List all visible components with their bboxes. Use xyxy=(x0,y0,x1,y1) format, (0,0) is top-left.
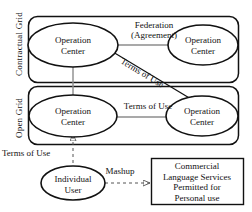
node-label-oc-bottom-left-line1: Operation xyxy=(43,106,103,116)
label-open-grid: Open Grid xyxy=(14,98,24,138)
edge-label-terms-of-use-middle: Terms of Use xyxy=(112,101,184,111)
node-label-oc-top-left-line1: Operation xyxy=(43,35,103,45)
node-operation-center-top-left[interactable] xyxy=(28,23,118,67)
edge-label-federation-line1: Federation xyxy=(118,20,190,30)
commercial-box-line1: Commercial xyxy=(149,161,245,172)
node-label-oc-top-left-line2: Center xyxy=(43,46,103,56)
commercial-box-line2: Language Services xyxy=(149,172,245,183)
edge-label-federation-line2: (Agreement) xyxy=(118,30,190,40)
diagram-canvas: Contractual Grid Open Grid Operation Cen… xyxy=(0,0,252,212)
edge-label-terms-of-use-lower-left: Terms of Use xyxy=(2,148,74,158)
edge-label-mashup: Mashup xyxy=(95,166,145,176)
commercial-box-text: Commercial Language Services Permitted f… xyxy=(149,161,245,203)
node-label-individual-user-line2: User xyxy=(43,185,103,195)
commercial-box-line3: Permitted for xyxy=(149,182,245,193)
commercial-box-line4: Personal use xyxy=(149,193,245,204)
node-label-individual-user-line1: Individual xyxy=(43,174,103,184)
node-label-oc-bottom-right-line2: Center xyxy=(172,117,232,127)
node-label-oc-top-right-line2: Center xyxy=(173,46,233,56)
node-operation-center-bottom-left[interactable] xyxy=(29,95,117,137)
label-contractual-grid: Contractual Grid xyxy=(14,12,24,76)
node-label-oc-bottom-left-line2: Center xyxy=(43,117,103,127)
